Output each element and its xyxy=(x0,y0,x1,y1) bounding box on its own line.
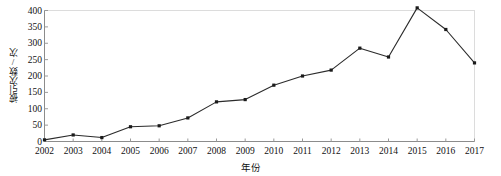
x-tick-label-2006: 2006 xyxy=(150,146,169,156)
x-tick-label-2017: 2017 xyxy=(465,146,484,156)
x-tick-label-2014: 2014 xyxy=(379,146,398,156)
x-tick-label-2016: 2016 xyxy=(436,146,455,156)
x-tick-label-2015: 2015 xyxy=(408,146,427,156)
x-tick-label-2005: 2005 xyxy=(121,146,140,156)
x-tick-label-2009: 2009 xyxy=(236,146,255,156)
x-tick-label-2011: 2011 xyxy=(293,146,312,156)
citation-count-line-chart: 被引次数/次 050100150200250300350400 20022003… xyxy=(0,0,501,176)
x-tick-label-2013: 2013 xyxy=(350,146,369,156)
x-tick-label-2002: 2002 xyxy=(35,146,54,156)
x-tick-label-2012: 2012 xyxy=(322,146,341,156)
x-tick-label-2004: 2004 xyxy=(92,146,111,156)
x-tick-label-2008: 2008 xyxy=(207,146,226,156)
x-axis-title: 年份 xyxy=(0,160,501,174)
x-tick-label-2007: 2007 xyxy=(178,146,197,156)
x-axis-tick-labels: 2002200320042005200620072008200920102011… xyxy=(0,0,501,176)
x-tick-label-2010: 2010 xyxy=(264,146,283,156)
x-tick-label-2003: 2003 xyxy=(64,146,83,156)
